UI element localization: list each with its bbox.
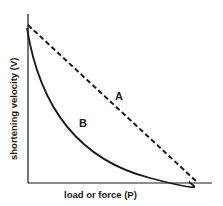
series-a-line — [28, 25, 197, 182]
series-a-label: A — [115, 90, 123, 102]
chart-root: A B load or force (P) shortening velocit… — [0, 0, 223, 206]
series-b-label: B — [79, 117, 87, 129]
series-b-curve — [27, 28, 194, 187]
velocity-force-chart: A B load or force (P) shortening velocit… — [0, 0, 223, 206]
x-axis-title: load or force (P) — [64, 189, 137, 200]
y-axis-title: shortening velocity (V) — [8, 58, 19, 160]
